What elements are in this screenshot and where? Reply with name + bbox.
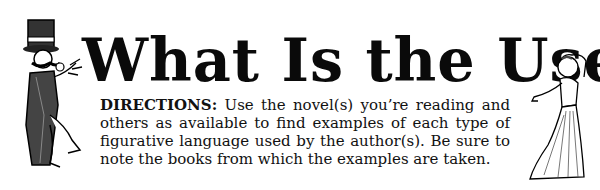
woman-in-dress-illustration [520, 45, 600, 185]
gentleman-icon [10, 15, 90, 170]
page-title: What Is the Use? [82, 30, 533, 90]
woman-icon [520, 45, 600, 185]
top-hat-gentleman-illustration [10, 15, 90, 170]
directions-label: DIRECTIONS: [100, 96, 217, 114]
directions-paragraph: DIRECTIONS: Use the novel(s) you’re read… [100, 96, 510, 168]
